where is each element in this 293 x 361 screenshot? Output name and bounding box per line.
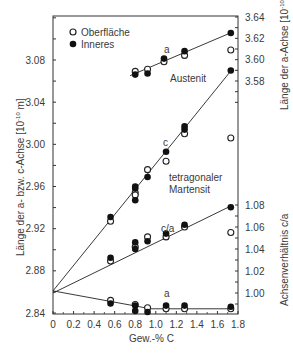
y-left-tick-label: 3.00 [26,139,46,150]
x-tick-label: 1.8 [231,319,245,330]
data-point-filled [107,254,114,261]
data-point-filled [107,214,114,221]
y-right-bottom-tick-label: 1.02 [245,266,265,277]
y-right-bottom-tick-label: 1.08 [245,200,265,211]
data-point-filled [107,300,114,307]
y-right-top-tick-label: 3.62 [245,33,265,44]
data-point-filled [144,238,151,245]
y-left-tick-label: 3.04 [26,97,46,108]
y-right-bottom-tick-label: 1.06 [245,222,265,233]
y-left-tick-label: 2.88 [26,265,46,276]
y-left-tick-label: 2.84 [26,308,46,319]
data-point-open [145,167,151,173]
y-right-bottom-tick-label: 1.04 [245,244,265,255]
legend-label-oberflaeche: Oberfläche [81,27,130,38]
annotation-martensit: Martensit [169,184,210,195]
data-point-filled [228,303,235,310]
x-tick-label: 1.6 [210,319,224,330]
data-point-filled [132,308,139,315]
data-point-filled [181,222,188,229]
y-right-top-tick-label: 3.58 [245,76,265,87]
data-point-filled [161,55,168,62]
legend-label-inneres: Inneres [81,39,114,50]
plot-frame [53,16,238,314]
y-axis-right-top-title: Länge der a-Achse [10-10 m] [279,0,290,110]
x-tick-label: 1.0 [149,319,163,330]
data-point-open [163,158,169,164]
data-point-filled [228,204,235,211]
y-axis-right-bottom-title: Achsenverhältnis c/a [279,213,290,306]
data-point-filled [132,239,139,246]
x-tick-label: 0.4 [87,319,101,330]
y-right-bottom-tick-label: 1.00 [245,288,265,299]
data-point-filled [132,71,139,78]
data-point-filled [132,246,139,253]
y-left-tick-label: 3.08 [26,55,46,66]
data-point-open [228,230,234,236]
x-axis-title: Gew.-% C [129,333,174,344]
annotation-austenit: Austenit [170,73,206,84]
data-point-open [228,47,234,53]
x-tick-label: 0.2 [67,319,81,330]
x-tick-label: 0 [50,319,56,330]
legend-open-marker-icon [70,29,76,35]
data-point-filled [144,70,151,77]
data-point-filled [144,174,151,181]
annotation-c-over-a: c/a [161,223,175,234]
y-left-tick-label: 2.96 [26,181,46,192]
data-point-filled [181,302,188,309]
x-tick-label: 1.2 [169,319,183,330]
axis-ticks [53,17,238,314]
annotation-tetragonaler: tetragonaler [169,172,223,183]
fit-line [53,205,233,293]
legend-filled-marker-icon [70,41,77,48]
y-axis-left-title: Länge der a- bzw. c-Achse [10-10 m] [15,98,26,256]
data-point-filled [163,302,170,309]
x-tick-label: 0.6 [108,319,122,330]
chart: 00.20.40.60.81.01.21.41.61.82.842.882.92… [0,0,293,361]
data-point-filled [132,197,139,204]
data-point-filled [181,123,188,130]
annotation-a-martensit: a [164,288,170,299]
y-left-tick-label: 2.92 [26,223,46,234]
data-point-filled [132,183,139,190]
data-point-filled [181,48,188,55]
fit-line [53,291,233,309]
data-point-filled [228,30,235,37]
y-right-top-tick-label: 3.64 [245,12,265,23]
x-tick-label: 0.8 [128,319,142,330]
legend: Oberfläche Inneres [70,27,131,50]
data-point-filled [228,67,235,74]
x-tick-label: 1.4 [190,319,204,330]
annotation-c: c [163,137,168,148]
annotation-a-austenit: a [164,44,170,55]
data-point-filled [144,309,151,316]
data-point-open [228,135,234,141]
data-point-filled [163,148,170,155]
y-right-top-tick-label: 3.60 [245,54,265,65]
